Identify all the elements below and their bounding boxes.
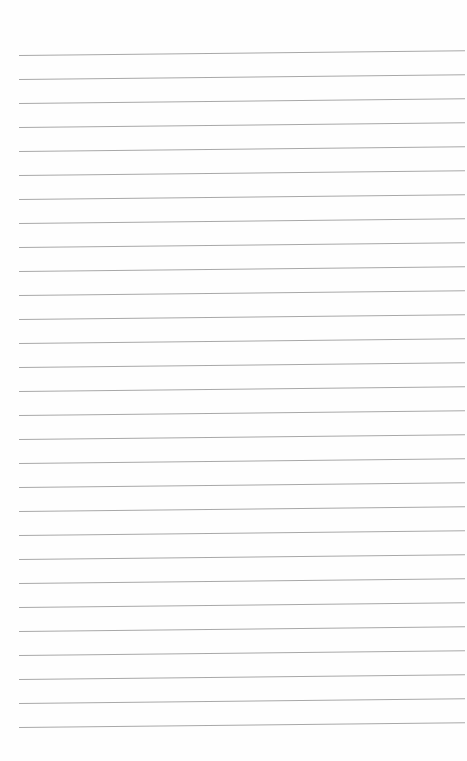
ruled-line: [19, 170, 465, 176]
ruled-line: [19, 578, 465, 584]
ruled-line: [19, 314, 465, 320]
ruled-line: [19, 530, 465, 536]
ruled-line: [19, 482, 465, 488]
ruled-line: [19, 74, 465, 80]
ruled-line: [19, 554, 465, 560]
ruled-line: [19, 194, 465, 200]
ruled-line: [19, 362, 465, 368]
ruled-line: [19, 674, 465, 680]
ruled-line: [19, 722, 465, 728]
ruled-line: [19, 386, 465, 392]
ruled-line: [19, 602, 465, 608]
ruled-line: [19, 290, 465, 296]
ruled-line: [19, 434, 465, 440]
ruled-line: [19, 698, 465, 704]
ruled-line: [19, 338, 465, 344]
ruled-line: [19, 146, 465, 152]
ruled-line: [19, 122, 465, 128]
ruled-line: [19, 266, 465, 272]
ruled-line: [19, 242, 465, 248]
ruled-line: [19, 98, 465, 104]
ruled-line: [19, 410, 465, 416]
ruled-line: [19, 626, 465, 632]
ruled-line: [19, 50, 465, 56]
ruled-line: [19, 218, 465, 224]
ruled-line: [19, 506, 465, 512]
ruled-line: [19, 650, 465, 656]
ruled-line: [19, 458, 465, 464]
lined-paper-page: [0, 0, 467, 761]
